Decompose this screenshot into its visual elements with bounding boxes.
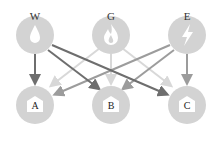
target-label-b: B (101, 100, 121, 111)
electric-edges (56, 45, 187, 94)
edge-g-a (52, 48, 100, 85)
source-label-w: W (25, 10, 45, 22)
target-label-c: C (177, 100, 197, 111)
source-label-e: E (177, 10, 197, 22)
edge-g-c (122, 48, 170, 85)
water-edges (35, 45, 166, 94)
target-label-a: A (25, 100, 45, 111)
source-label-g: G (101, 10, 121, 22)
